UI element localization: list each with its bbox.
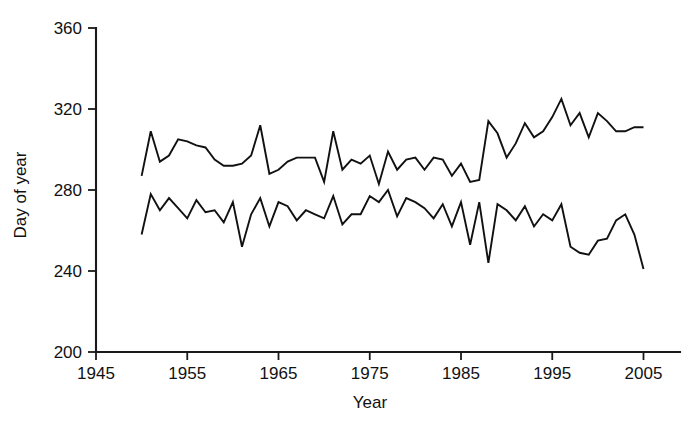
line-chart: 200240280320360 Day of year 194519551965…	[0, 0, 697, 433]
y-tick-labels: 200240280320360	[54, 19, 82, 362]
x-tick-label: 1985	[442, 364, 480, 383]
x-tick-labels: 1945195519651975198519952005	[77, 364, 662, 383]
x-tick-label: 1955	[168, 364, 206, 383]
x-tick-label: 1995	[533, 364, 571, 383]
x-axis: 1945195519651975198519952005 Year	[77, 352, 680, 412]
y-tick-label: 360	[54, 19, 82, 38]
x-tick-label: 2005	[625, 364, 663, 383]
y-tick-label: 280	[54, 181, 82, 200]
y-tick-marks	[88, 28, 96, 352]
x-tick-label: 1975	[351, 364, 389, 383]
y-tick-label: 200	[54, 343, 82, 362]
y-axis: 200240280320360 Day of year	[11, 19, 96, 362]
x-tick-label: 1945	[77, 364, 115, 383]
series-line-upper	[142, 99, 644, 184]
y-axis-title: Day of year	[11, 151, 30, 238]
chart-figure: 200240280320360 Day of year 194519551965…	[0, 0, 697, 433]
x-axis-title: Year	[353, 393, 388, 412]
y-tick-label: 320	[54, 100, 82, 119]
series-line-lower	[142, 190, 644, 269]
x-tick-marks	[96, 352, 644, 360]
y-tick-label: 240	[54, 262, 82, 281]
x-tick-label: 1965	[260, 364, 298, 383]
data-series-group	[142, 99, 644, 269]
